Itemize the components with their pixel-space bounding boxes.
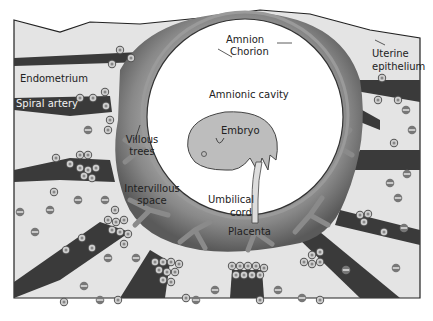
label-amnion: Amnion bbox=[226, 34, 264, 45]
label-uterine-epithelium-line2: epithelium bbox=[372, 61, 425, 72]
label-villous-trees-line2: trees bbox=[120, 146, 164, 157]
diagram-canvas bbox=[0, 0, 433, 321]
label-intervillous-space-line1: Intervillous bbox=[120, 183, 184, 194]
label-placenta: Placenta bbox=[228, 226, 271, 237]
label-uterine-epithelium-line1: Uterine bbox=[372, 48, 409, 59]
placenta-diagram: Amnion Chorion Uterine epithelium Endome… bbox=[0, 0, 433, 321]
label-umbilical-cord-line1: Umbilical bbox=[208, 194, 254, 205]
label-embryo: Embryo bbox=[221, 125, 260, 136]
label-amnionic-cavity: Amnionic cavity bbox=[209, 89, 289, 100]
label-intervillous-space-line2: space bbox=[120, 195, 184, 206]
label-spiral-artery: Spiral artery bbox=[16, 98, 78, 109]
label-villous-trees-line1: Villous bbox=[120, 134, 164, 145]
label-umbilical-cord-line2: cord bbox=[230, 207, 252, 218]
label-endometrium: Endometrium bbox=[20, 73, 88, 84]
label-chorion: Chorion bbox=[230, 46, 269, 57]
